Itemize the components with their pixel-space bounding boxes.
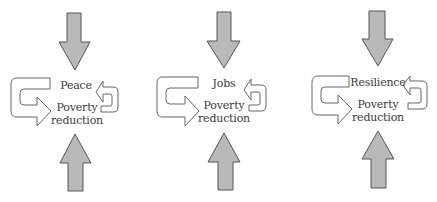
panel-resilience-top-label: Resilience	[350, 76, 405, 89]
u-turn-left-arrow-icon	[403, 76, 427, 109]
panel-resilience-reduction-label: reduction	[352, 111, 404, 124]
panel-peace-poverty-label: Poverty	[57, 101, 98, 114]
panel-jobs-top-label: Jobs	[213, 77, 236, 90]
u-turn-right-arrow-icon	[11, 78, 51, 126]
panel-peace-top-label: Peace	[60, 79, 92, 92]
panel-resilience-poverty-label: Poverty	[358, 98, 399, 111]
down-arrow-icon	[362, 11, 393, 66]
u-turn-right-arrow-icon	[157, 77, 199, 126]
u-turn-right-arrow-icon	[312, 76, 352, 124]
diagram-canvas: Peace Poverty reduction Jobs Poverty red…	[0, 0, 437, 202]
panel-peace-reduction-label: reduction	[51, 114, 103, 127]
u-turn-left-arrow-icon	[96, 81, 118, 112]
down-arrow-icon	[59, 13, 90, 70]
panel-jobs-reduction-label: reduction	[198, 112, 250, 125]
up-arrow-icon	[208, 133, 240, 190]
up-arrow-icon	[60, 134, 91, 191]
down-arrow-icon	[207, 12, 240, 68]
u-turn-left-arrow-icon	[244, 79, 266, 111]
panel-jobs-poverty-label: Poverty	[204, 99, 245, 112]
up-arrow-icon	[362, 131, 394, 188]
